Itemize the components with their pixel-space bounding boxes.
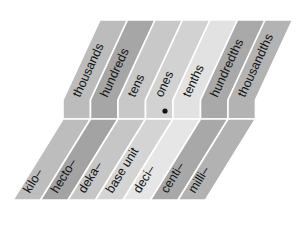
place-value-metric-diagram: thousandskilo–hundredshecto–tensdeka–one… xyxy=(0,0,306,227)
strips-group: thousandskilo–hundredshecto–tensdeka–one… xyxy=(13,20,293,200)
decimal-point-icon xyxy=(162,108,167,113)
